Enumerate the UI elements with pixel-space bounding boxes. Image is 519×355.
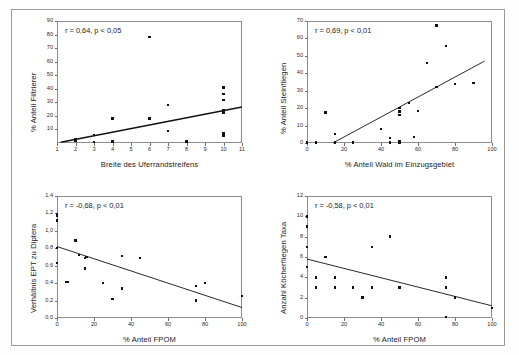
data-point [445, 276, 447, 278]
data-point [389, 235, 391, 237]
data-point [306, 215, 308, 217]
data-point [445, 316, 447, 318]
data-point [306, 266, 308, 268]
regression-line [307, 259, 492, 306]
data-point [371, 286, 373, 288]
data-point [315, 276, 317, 278]
data-point [306, 246, 308, 248]
data-point [334, 276, 336, 278]
figure-page: r = 0,64, p < 0,05% Anteil FiltriererBre… [0, 0, 519, 355]
data-point [324, 256, 326, 258]
data-point [491, 307, 493, 309]
data-point [306, 225, 308, 227]
trend-line-layer [0, 0, 519, 355]
data-point [352, 286, 354, 288]
data-point [361, 296, 363, 298]
data-point [371, 246, 373, 248]
data-point [445, 286, 447, 288]
data-point [454, 296, 456, 298]
data-point [334, 286, 336, 288]
data-point [315, 286, 317, 288]
data-point [398, 286, 400, 288]
